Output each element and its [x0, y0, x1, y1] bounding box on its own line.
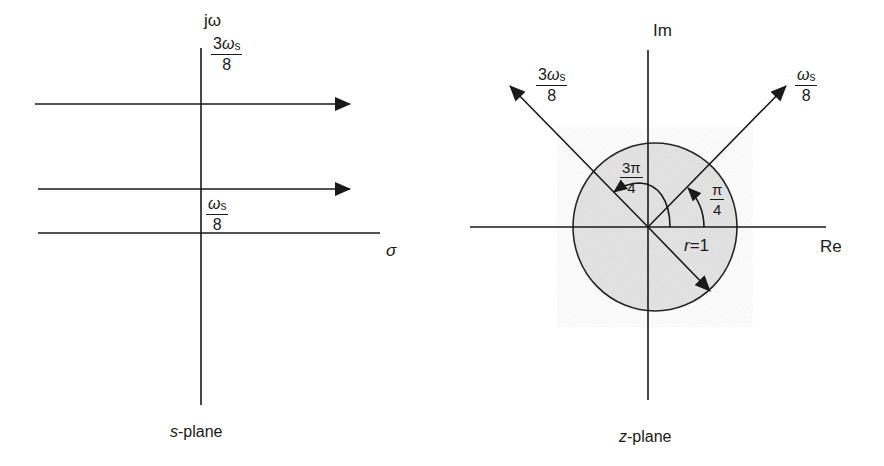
- numerator: 3π: [620, 160, 643, 178]
- im-axis-label: Im: [653, 22, 672, 39]
- coef: 3: [213, 35, 222, 52]
- omega-symbol: ω: [797, 66, 809, 83]
- omega-symbol: ω: [208, 195, 220, 212]
- angle-label-pi-over-4: π 4: [710, 182, 724, 217]
- label-ws-over-8-z-plane: ωs 8: [795, 67, 817, 104]
- coef: 3: [538, 66, 547, 83]
- diagram-graphics: [0, 0, 884, 466]
- s-plane-to-z-plane-mapping-diagram: jω 3ωs 8 ωs 8 σ s-plane Im 3ωs 8 ωs 8 3π…: [0, 0, 884, 466]
- z-plane-graph: [470, 50, 826, 400]
- subscript: s: [234, 39, 240, 53]
- radius-value: =1: [690, 236, 709, 255]
- denominator: 4: [627, 178, 635, 195]
- z-plane-caption: z-plane: [619, 428, 671, 446]
- re-axis-label: Re: [820, 238, 842, 255]
- omega-symbol: ω: [222, 35, 234, 52]
- denominator: 4: [713, 200, 721, 217]
- subscript: s: [809, 70, 815, 84]
- denominator: 8: [213, 215, 222, 233]
- label-ws-over-8-s-plane: ωs 8: [206, 196, 228, 233]
- caption-text: -plane: [178, 423, 222, 440]
- denominator: 8: [222, 55, 231, 73]
- subscript: s: [220, 199, 226, 213]
- numerator: π: [710, 182, 724, 200]
- denominator: 8: [547, 86, 556, 104]
- subscript: s: [559, 70, 565, 84]
- radius-label: r=1: [684, 237, 709, 254]
- label-3ws-over-8-z-plane: 3ωs 8: [536, 67, 567, 104]
- denominator: 8: [802, 86, 811, 104]
- jw-axis-label: jω: [204, 12, 221, 29]
- angle-label-3pi-over-4: 3π 4: [620, 160, 643, 195]
- label-3ws-over-8-s-plane: 3ωs 8: [211, 36, 242, 73]
- caption-variable: z: [619, 428, 627, 445]
- sigma-axis-label: σ: [386, 242, 396, 259]
- omega-symbol: ω: [547, 66, 559, 83]
- caption-text: -plane: [627, 428, 671, 445]
- caption-variable: s: [170, 423, 178, 440]
- s-plane-caption: s-plane: [170, 423, 222, 441]
